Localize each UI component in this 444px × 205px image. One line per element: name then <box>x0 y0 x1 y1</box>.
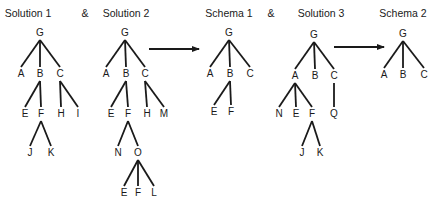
tree-node-e: E <box>108 109 115 119</box>
title-schema-1: Schema 1 <box>205 8 252 19</box>
tree-node-f: F <box>38 109 44 119</box>
tree-edge <box>41 121 51 146</box>
tree-node-m: M <box>160 109 168 119</box>
title-solution-2: Solution 2 <box>103 8 150 19</box>
tree-node-a: A <box>207 69 214 79</box>
tree-schema-2-edges <box>384 41 424 68</box>
tree-edge <box>314 42 315 69</box>
tree-node-n: N <box>114 148 121 158</box>
tree-node-a: A <box>381 70 388 80</box>
tree-node-l: L <box>151 188 157 198</box>
tree-node-g: G <box>121 28 129 38</box>
edge-layer <box>0 0 444 205</box>
tree-solution-3-edges <box>279 42 334 146</box>
tree-edge <box>60 81 61 107</box>
tree-edge <box>40 81 41 107</box>
tree-node-g: G <box>36 28 44 38</box>
tree-edge <box>128 121 138 146</box>
tree-edge <box>214 81 230 105</box>
tree-node-a: A <box>292 71 299 81</box>
tree-node-f: F <box>228 107 234 117</box>
tree-generalization-diagram: Solution 1Solution 2Schema 1Solution 3Sc… <box>0 0 444 205</box>
ampersand: & <box>81 8 88 19</box>
tree-node-f: F <box>309 109 315 119</box>
tree-node-c: C <box>420 70 427 80</box>
tree-node-c: C <box>141 69 148 79</box>
tree-edge <box>21 40 40 67</box>
tree-edge <box>302 121 312 146</box>
tree-edge <box>25 81 40 107</box>
tree-node-j: J <box>300 148 305 158</box>
tree-edge <box>314 42 334 69</box>
tree-node-a: A <box>18 69 25 79</box>
tree-edge <box>145 81 164 107</box>
tree-node-b: B <box>37 69 44 79</box>
tree-node-n: N <box>275 109 282 119</box>
tree-edge <box>118 121 128 146</box>
tree-node-c: C <box>246 69 253 79</box>
tree-node-q: Q <box>330 109 338 119</box>
title-schema-2: Schema 2 <box>379 8 426 19</box>
tree-edge <box>403 41 424 68</box>
tree-edge <box>229 40 250 67</box>
tree-edge <box>145 81 147 107</box>
tree-node-c: C <box>56 69 63 79</box>
tree-node-e: E <box>22 109 29 119</box>
tree-node-j: J <box>28 148 33 158</box>
tree-node-h: H <box>143 109 150 119</box>
tree-edge <box>60 81 78 107</box>
tree-node-k: K <box>48 148 55 158</box>
title-solution-1: Solution 1 <box>5 8 52 19</box>
tree-node-b: B <box>227 69 234 79</box>
tree-edge <box>312 121 320 146</box>
tree-node-a: A <box>103 69 110 79</box>
tree-edge <box>230 81 231 105</box>
tree-edge <box>295 83 296 107</box>
ampersand: & <box>267 8 274 19</box>
tree-node-o: O <box>134 148 142 158</box>
title-solution-3: Solution 3 <box>298 8 345 19</box>
tree-edge <box>124 160 138 186</box>
tree-node-b: B <box>400 70 407 80</box>
tree-node-g: G <box>225 28 233 38</box>
tree-node-h: H <box>57 109 64 119</box>
tree-node-f: F <box>125 109 131 119</box>
tree-node-b: B <box>312 71 319 81</box>
tree-edge <box>295 42 314 69</box>
tree-edge <box>40 40 60 67</box>
tree-node-e: E <box>121 188 128 198</box>
tree-edge <box>30 121 41 146</box>
tree-edge <box>111 81 126 107</box>
tree-node-f: F <box>135 188 141 198</box>
tree-edge <box>125 40 145 67</box>
tree-edge <box>210 40 229 67</box>
tree-edge <box>229 40 230 67</box>
tree-edge <box>384 41 403 68</box>
tree-node-k: K <box>317 148 324 158</box>
tree-node-g: G <box>310 30 318 40</box>
tree-edge <box>126 81 128 107</box>
tree-node-b: B <box>123 69 130 79</box>
tree-edge <box>295 83 312 107</box>
tree-node-e: E <box>211 107 218 117</box>
tree-node-g: G <box>399 29 407 39</box>
tree-edge <box>125 40 126 67</box>
tree-node-e: E <box>293 109 300 119</box>
tree-node-c: C <box>330 71 337 81</box>
tree-edge <box>138 160 154 186</box>
tree-solution-2-edges <box>106 40 164 186</box>
tree-node-i: I <box>77 109 80 119</box>
tree-solution-1-edges <box>21 40 78 146</box>
tree-edge <box>279 83 295 107</box>
tree-edge <box>106 40 125 67</box>
